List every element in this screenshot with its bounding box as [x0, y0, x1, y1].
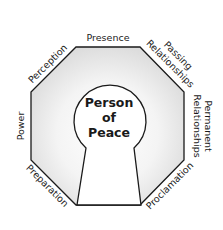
person-of-peace-diagram: Person of Peace Presence Perception Pass…	[0, 0, 223, 230]
center-label-line1: Person	[85, 95, 134, 110]
center-label-line2: of	[102, 110, 117, 125]
center-label-line3: Peace	[88, 125, 130, 140]
label-power: Power	[15, 112, 26, 141]
label-permanent: Permanent	[203, 100, 214, 152]
label-presence: Presence	[87, 32, 130, 43]
label-permanent-relationships: Relationships	[192, 94, 203, 157]
